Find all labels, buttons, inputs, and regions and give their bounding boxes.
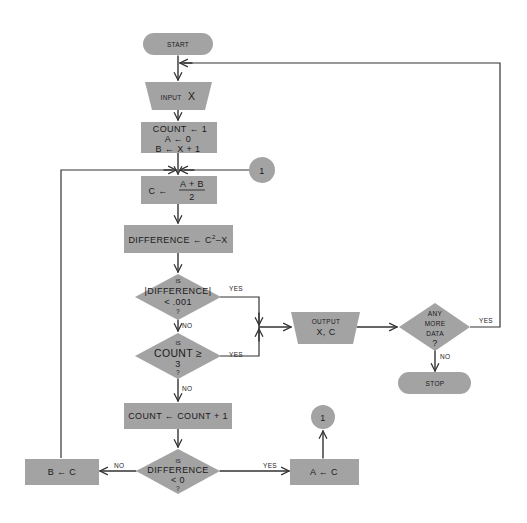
output-trapezoid: OUTPUT X, C (291, 312, 360, 344)
decision-more-data: ANY MORE DATA ? (399, 303, 470, 351)
compute-c-process: C ← A + B 2 (141, 176, 217, 204)
init-line-count: COUNT ← 1 (153, 124, 207, 134)
decision1-line-diff: |DIFFERENCE| (145, 286, 212, 296)
decision3-line-diff: DIFFERENCE (147, 465, 209, 475)
decision2-line-q: ? (176, 369, 180, 376)
init-line-a: A ← 0 (165, 134, 192, 144)
compute-c-denominator: 2 (189, 192, 194, 202)
label-count-yes: YES (229, 351, 243, 358)
stop-label: STOP (426, 380, 445, 387)
init-process: COUNT ← 1 A ← 0 B ← X + 1 (141, 122, 217, 154)
increment-process: COUNT ← COUNT + 1 (124, 403, 232, 429)
decision1-line-threshold: < .001 (164, 297, 192, 307)
decision3-line-zero: < 0 (171, 475, 185, 485)
decision2-line-three: 3 (175, 359, 180, 369)
connector-bottom-label: 1 (320, 413, 325, 423)
a-assign-label: A ← C (310, 467, 338, 477)
decision-more-line-more: MORE (425, 320, 446, 327)
decision1-line-q: ? (176, 308, 180, 315)
b-assign-label: B ← C (48, 467, 77, 477)
decision2-line-count: COUNT ≥ (154, 347, 202, 359)
decision-more-line-q: ? (432, 338, 437, 348)
start-label: START (167, 41, 189, 48)
label-diff-no: NO (182, 322, 192, 329)
connector-top-label: 1 (259, 166, 264, 176)
label-count-no: NO (182, 385, 192, 392)
decision-count: IS COUNT ≥ 3 ? (135, 333, 221, 379)
stop-terminal: STOP (398, 372, 471, 394)
label-more-no: NO (440, 353, 450, 360)
connector-1-top: 1 (249, 157, 275, 183)
compute-c-numerator: A + B (180, 179, 204, 189)
decision2-line-is: IS (175, 340, 181, 346)
a-assign-process: A ← C (290, 459, 359, 485)
connector-1-bottom: 1 (311, 405, 335, 429)
decision-more-line-data: DATA (426, 330, 444, 337)
difference-process: DIFFERENCE ← C2–X (124, 225, 233, 253)
input-x-trapezoid: INPUT X (145, 82, 212, 110)
edge-diff-yes (220, 297, 259, 327)
label-diff-yes: YES (229, 285, 243, 292)
flowchart: START INPUT X COUNT ← 1 A ← 0 B ← X + 1 … (0, 0, 527, 523)
b-assign-process: B ← C (25, 459, 99, 485)
decision1-line-is: IS (175, 278, 181, 284)
decision-more-line-any: ANY (428, 310, 443, 317)
label-neg-yes: YES (263, 462, 277, 469)
decision-small-difference: IS |DIFFERENCE| < .001 ? (135, 274, 221, 320)
label-neg-no: NO (114, 462, 124, 469)
init-line-b: B ← X + 1 (156, 144, 201, 154)
increment-label: COUNT ← COUNT + 1 (128, 411, 228, 421)
output-line-values: X, C (316, 327, 335, 337)
decision3-line-q: ? (176, 485, 180, 492)
decision-negative: IS DIFFERENCE < 0 ? (136, 449, 220, 494)
decision3-line-is: IS (175, 458, 181, 464)
output-line-label: OUTPUT (312, 318, 341, 325)
label-more-yes: YES (479, 317, 493, 324)
start-terminal: START (143, 33, 213, 55)
compute-c-left: C ← (148, 186, 167, 196)
